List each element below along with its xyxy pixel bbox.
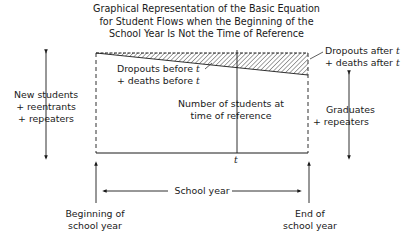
outflow-label: Graduates + repeaters [313, 104, 375, 128]
dropouts-after-label: Dropouts after t + deaths after t [325, 45, 400, 69]
inflow-label: New students + reentrants + repeaters [14, 89, 78, 125]
school-year-label: School year [170, 185, 234, 197]
dropouts-before-label: Dropouts before t + deaths before t [117, 63, 200, 87]
t-axis-label: t [234, 154, 238, 166]
dropouts-after-leader [310, 52, 323, 59]
students-at-reference-label: Number of students at time of reference [172, 98, 290, 122]
beginning-label: Beginning of school year [60, 208, 130, 232]
end-label: End of school year [275, 208, 345, 232]
